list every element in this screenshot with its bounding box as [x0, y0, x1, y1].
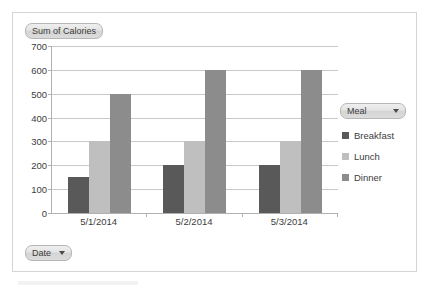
legend-item: Dinner — [342, 167, 414, 188]
legend-swatch-icon — [342, 132, 349, 139]
bar-lunch[interactable] — [280, 141, 301, 213]
y-axis-tick-label: 600 — [13, 64, 47, 75]
x-axis-tickmark — [146, 213, 147, 217]
y-axis-tick-label: 700 — [13, 41, 47, 52]
date-field-button-label: Date — [32, 246, 51, 261]
bar-group[interactable] — [147, 46, 242, 213]
bar-breakfast[interactable] — [163, 165, 184, 213]
legend-field-button-label: Meal — [347, 104, 367, 119]
x-axis-tickmark — [337, 213, 338, 217]
bar-group[interactable] — [52, 46, 147, 213]
y-axis-tick-label: 500 — [13, 88, 47, 99]
bar-dinner[interactable] — [110, 94, 131, 213]
legend-swatch-icon — [342, 153, 349, 160]
legend-swatch-icon — [342, 174, 349, 181]
y-axis-labels: 7006005004003002001000 — [13, 46, 47, 213]
pivot-chart-frame[interactable]: Sum of Calories 7006005004003002001000 5… — [12, 12, 417, 272]
legend-item-label: Dinner — [354, 172, 382, 183]
legend-item: Lunch — [342, 146, 414, 167]
x-axis-tick-label: 5/3/2014 — [271, 216, 308, 227]
legend-item: Breakfast — [342, 125, 414, 146]
x-axis-labels: 5/1/20145/2/20145/3/2014 — [51, 216, 338, 232]
bar-breakfast[interactable] — [259, 165, 280, 213]
y-axis-tickmark — [48, 213, 52, 214]
legend-field-button[interactable]: Meal — [340, 103, 406, 119]
bar-group[interactable] — [243, 46, 338, 213]
y-axis-tick-label: 0 — [13, 208, 47, 219]
bar-lunch[interactable] — [184, 141, 205, 213]
chevron-down-icon[interactable] — [393, 109, 399, 113]
x-axis-tick-label: 5/2/2014 — [176, 216, 213, 227]
y-axis-tick-label: 400 — [13, 112, 47, 123]
bar-dinner[interactable] — [205, 70, 226, 213]
y-axis-tick-label: 100 — [13, 184, 47, 195]
x-axis-tickmark — [242, 213, 243, 217]
legend-item-label: Breakfast — [354, 130, 394, 141]
legend-item-label: Lunch — [354, 151, 380, 162]
y-axis-tick-label: 200 — [13, 160, 47, 171]
bars-layer[interactable] — [52, 46, 338, 213]
chevron-down-icon[interactable] — [59, 251, 65, 255]
plot-area[interactable] — [51, 46, 338, 214]
y-axis-tick-label: 300 — [13, 136, 47, 147]
page-artifact — [18, 281, 138, 285]
x-axis-tick-label: 5/1/2014 — [80, 216, 117, 227]
chart-legend: BreakfastLunchDinner — [342, 125, 414, 188]
bar-lunch[interactable] — [89, 141, 110, 213]
date-field-button[interactable]: Date — [25, 245, 72, 261]
bar-dinner[interactable] — [301, 70, 322, 213]
bar-breakfast[interactable] — [68, 177, 89, 213]
